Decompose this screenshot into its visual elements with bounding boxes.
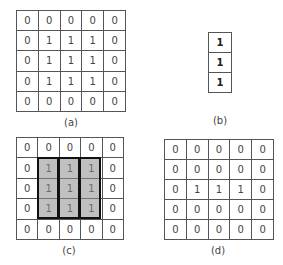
matrix-d: 0000000000011100000000000 — [164, 139, 274, 240]
matrix-cell: 1 — [59, 158, 80, 178]
matrix-cell: 1 — [38, 71, 60, 91]
matrix-cell: 0 — [252, 220, 274, 240]
matrix-row: 00000 — [17, 219, 124, 239]
matrix-cell: 1 — [209, 73, 232, 93]
matrix-cell: 0 — [102, 178, 123, 198]
matrix-cell: 0 — [38, 219, 59, 239]
matrix-cell: 0 — [59, 138, 80, 158]
matrix-cell: 0 — [208, 140, 230, 160]
matrix-cell: 0 — [102, 158, 123, 178]
matrix-cell: 1 — [82, 51, 104, 71]
kernel-b: 111 — [208, 32, 232, 93]
matrix-cell: 0 — [165, 220, 187, 240]
matrix-cell: 0 — [59, 219, 80, 239]
matrix-row: 1 — [209, 33, 232, 53]
matrix-cell: 1 — [186, 180, 208, 200]
matrix-cell: 0 — [165, 160, 187, 180]
matrix-cell: 0 — [252, 140, 274, 160]
matrix-c-body: 0000001110011100111000000 — [17, 138, 124, 240]
matrix-cell: 1 — [209, 33, 232, 53]
kernel-b-body: 111 — [209, 33, 232, 93]
matrix-row: 1 — [209, 73, 232, 93]
matrix-cell: 1 — [82, 71, 104, 91]
matrix-cell: 0 — [82, 11, 104, 31]
matrix-cell: 0 — [252, 160, 274, 180]
matrix-a: 0000001110011100111000000 — [16, 10, 126, 112]
matrix-cell: 0 — [102, 219, 123, 239]
matrix-cell: 0 — [17, 71, 39, 91]
matrix-cell: 1 — [38, 199, 59, 219]
matrix-row: 00000 — [17, 91, 126, 111]
matrix-cell: 0 — [252, 180, 274, 200]
matrix-cell: 0 — [230, 200, 252, 220]
matrix-cell: 1 — [60, 31, 82, 51]
matrix-cell: 0 — [165, 180, 187, 200]
matrix-cell: 1 — [230, 180, 252, 200]
matrix-cell: 0 — [81, 138, 102, 158]
matrix-cell: 1 — [208, 180, 230, 200]
matrix-cell: 0 — [60, 11, 82, 31]
matrix-cell: 1 — [59, 199, 80, 219]
matrix-cell: 1 — [82, 31, 104, 51]
matrix-cell: 0 — [38, 138, 59, 158]
matrix-cell: 0 — [17, 199, 38, 219]
matrix-cell: 0 — [17, 31, 39, 51]
matrix-row: 00000 — [165, 160, 274, 180]
matrix-cell: 0 — [17, 219, 38, 239]
matrix-row: 01110 — [17, 199, 124, 219]
matrix-cell: 1 — [60, 51, 82, 71]
matrix-cell: 0 — [230, 220, 252, 240]
matrix-cell: 1 — [38, 178, 59, 198]
matrix-row: 00000 — [165, 200, 274, 220]
matrix-cell: 0 — [38, 91, 60, 111]
matrix-cell: 1 — [38, 51, 60, 71]
matrix-cell: 0 — [104, 91, 126, 111]
matrix-d-body: 0000000000011100000000000 — [165, 140, 274, 240]
matrix-cell: 0 — [38, 11, 60, 31]
matrix-cell: 0 — [17, 11, 39, 31]
matrix-row: 00000 — [17, 138, 124, 158]
matrix-cell: 0 — [104, 11, 126, 31]
matrix-row: 01110 — [165, 180, 274, 200]
caption-a: (a) — [56, 117, 86, 128]
matrix-cell: 0 — [186, 200, 208, 220]
matrix-cell: 0 — [208, 160, 230, 180]
matrix-cell: 0 — [102, 138, 123, 158]
matrix-cell: 0 — [104, 71, 126, 91]
matrix-row: 01110 — [17, 71, 126, 91]
matrix-cell: 0 — [186, 160, 208, 180]
matrix-cell: 0 — [186, 220, 208, 240]
matrix-row: 01110 — [17, 31, 126, 51]
matrix-cell: 0 — [165, 140, 187, 160]
matrix-cell: 1 — [209, 53, 232, 73]
matrix-row: 00000 — [165, 220, 274, 240]
matrix-cell: 0 — [252, 200, 274, 220]
matrix-cell: 1 — [60, 71, 82, 91]
matrix-cell: 1 — [38, 31, 60, 51]
matrix-cell: 0 — [17, 138, 38, 158]
matrix-row: 01110 — [17, 178, 124, 198]
matrix-cell: 0 — [102, 199, 123, 219]
matrix-cell: 0 — [230, 140, 252, 160]
matrix-cell: 0 — [60, 91, 82, 111]
matrix-cell: 0 — [81, 219, 102, 239]
matrix-row: 00000 — [165, 140, 274, 160]
matrix-cell: 1 — [81, 199, 102, 219]
matrix-cell: 0 — [186, 140, 208, 160]
caption-b: (b) — [205, 115, 235, 126]
matrix-cell: 1 — [81, 158, 102, 178]
matrix-cell: 0 — [104, 51, 126, 71]
matrix-cell: 0 — [17, 91, 39, 111]
matrix-cell: 1 — [81, 178, 102, 198]
matrix-cell: 1 — [38, 158, 59, 178]
matrix-cell: 0 — [208, 200, 230, 220]
matrix-row: 01110 — [17, 51, 126, 71]
matrix-cell: 0 — [17, 51, 39, 71]
matrix-cell: 1 — [59, 178, 80, 198]
matrix-c: 0000001110011100111000000 — [16, 137, 124, 240]
matrix-cell: 0 — [230, 160, 252, 180]
caption-c: (c) — [54, 245, 84, 256]
matrix-cell: 0 — [165, 200, 187, 220]
matrix-a-body: 0000001110011100111000000 — [17, 11, 126, 112]
matrix-row: 01110 — [17, 158, 124, 178]
